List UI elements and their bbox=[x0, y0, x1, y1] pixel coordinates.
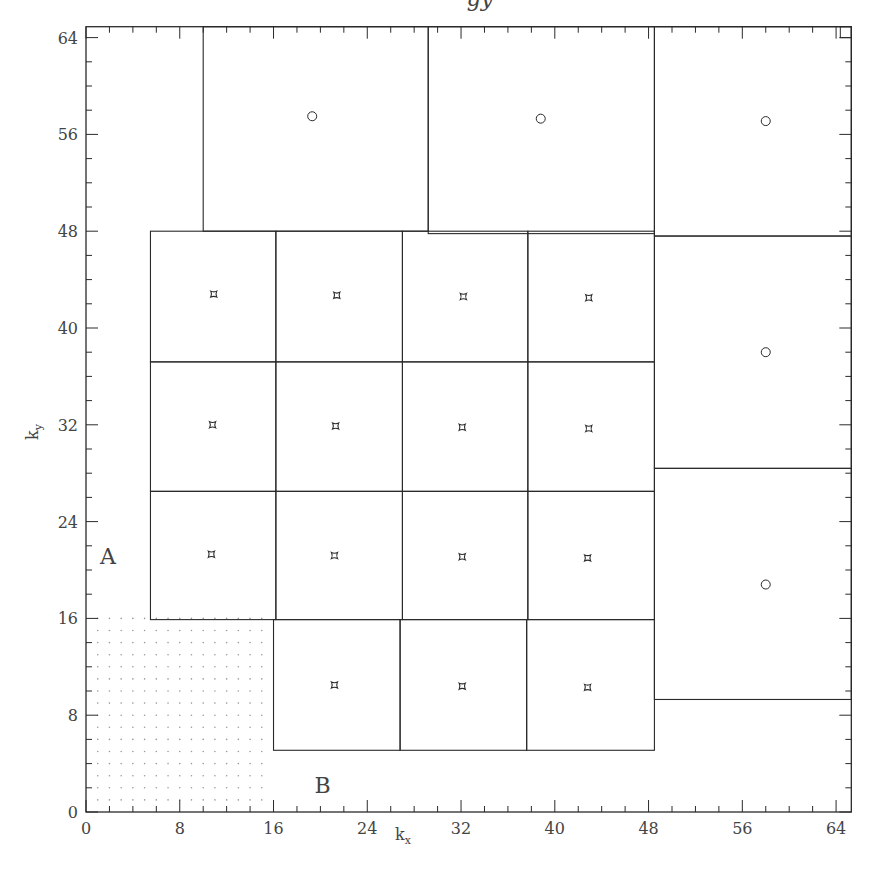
grid-dot bbox=[249, 714, 251, 716]
grid-dot bbox=[249, 799, 251, 801]
grid-box bbox=[150, 491, 275, 619]
grid-dot bbox=[202, 702, 204, 704]
grid-dot bbox=[120, 618, 122, 620]
grid-dot bbox=[191, 666, 193, 668]
grid-dot bbox=[132, 714, 134, 716]
grid-dot bbox=[226, 690, 228, 692]
grid-dot bbox=[109, 678, 111, 680]
grid-dot bbox=[167, 666, 169, 668]
grid-dot bbox=[226, 727, 228, 729]
x-tick-label: 48 bbox=[638, 819, 658, 838]
grid-dot bbox=[214, 775, 216, 777]
grid-dot bbox=[238, 763, 240, 765]
grid-dot bbox=[132, 727, 134, 729]
grid-dot bbox=[156, 763, 158, 765]
y-tick-label: 48 bbox=[58, 222, 78, 241]
grid-dot bbox=[120, 666, 122, 668]
grid-dot bbox=[120, 690, 122, 692]
grid-dot bbox=[109, 799, 111, 801]
grid-dot bbox=[167, 642, 169, 644]
grid-box bbox=[276, 491, 403, 619]
grid-dot bbox=[144, 690, 146, 692]
grid-dot bbox=[109, 727, 111, 729]
grid-dot bbox=[226, 775, 228, 777]
grid-dot bbox=[214, 702, 216, 704]
grid-dot bbox=[214, 618, 216, 620]
grid-dot bbox=[226, 799, 228, 801]
region-label-a: A bbox=[99, 544, 117, 569]
grid-dot bbox=[202, 678, 204, 680]
grid-dot bbox=[97, 739, 99, 741]
y-tick-label: 24 bbox=[58, 513, 78, 532]
y-tick-label: 56 bbox=[58, 125, 78, 144]
star-marker-icon bbox=[211, 291, 217, 297]
grid-dot bbox=[202, 799, 204, 801]
grid-dot bbox=[238, 751, 240, 753]
grid-dot bbox=[120, 739, 122, 741]
grid-dot bbox=[249, 666, 251, 668]
grid-dot bbox=[109, 751, 111, 753]
y-tick-label: 64 bbox=[58, 29, 78, 48]
grid-dot bbox=[238, 775, 240, 777]
grid-dot bbox=[167, 763, 169, 765]
x-tick-label: 8 bbox=[175, 819, 185, 838]
grid-dot bbox=[238, 666, 240, 668]
grid-dot bbox=[226, 714, 228, 716]
grid-dot bbox=[156, 642, 158, 644]
grid-dot bbox=[132, 787, 134, 789]
grid-dot bbox=[179, 714, 181, 716]
x-tick-label: 64 bbox=[826, 819, 846, 838]
grid-dot bbox=[144, 727, 146, 729]
grid-dot bbox=[202, 775, 204, 777]
x-tick-label: 16 bbox=[263, 819, 283, 838]
grid-dot bbox=[238, 654, 240, 656]
grid-dot bbox=[191, 787, 193, 789]
grid-dot bbox=[156, 727, 158, 729]
grid-dot bbox=[226, 751, 228, 753]
grid-dot bbox=[144, 739, 146, 741]
y-tick-label: 32 bbox=[58, 416, 78, 435]
grid-dot bbox=[97, 654, 99, 656]
y-tick-label: 8 bbox=[68, 706, 78, 725]
grid-dot bbox=[97, 751, 99, 753]
grid-dot bbox=[132, 666, 134, 668]
grid-dot bbox=[202, 787, 204, 789]
grid-dot bbox=[156, 775, 158, 777]
grid-dot bbox=[238, 618, 240, 620]
grid-dot bbox=[97, 763, 99, 765]
top-row-box bbox=[654, 27, 851, 236]
circle-marker-icon bbox=[761, 348, 770, 357]
grid-dot bbox=[132, 763, 134, 765]
x-axis-label: kx bbox=[395, 825, 412, 847]
grid-dot bbox=[214, 787, 216, 789]
grid-dot bbox=[144, 678, 146, 680]
grid-dot bbox=[120, 642, 122, 644]
star-marker-icon bbox=[585, 555, 591, 561]
grid-dot bbox=[144, 799, 146, 801]
grid-dot bbox=[109, 654, 111, 656]
circle-marker-icon bbox=[761, 117, 770, 126]
grid-dot bbox=[214, 727, 216, 729]
grid-dot bbox=[167, 678, 169, 680]
grid-dot bbox=[156, 787, 158, 789]
grid-dot bbox=[261, 799, 263, 801]
grid-dot bbox=[109, 618, 111, 620]
grid-dot bbox=[202, 727, 204, 729]
grid-dot bbox=[226, 678, 228, 680]
plot-axes bbox=[86, 27, 851, 812]
grid-dot bbox=[120, 775, 122, 777]
grid-dot bbox=[167, 702, 169, 704]
x-tick-label: 32 bbox=[451, 819, 471, 838]
star-marker-icon bbox=[334, 292, 340, 298]
y-tick-label: 16 bbox=[58, 609, 78, 628]
grid-dot bbox=[179, 787, 181, 789]
grid-dot bbox=[156, 739, 158, 741]
grid-dot bbox=[97, 775, 99, 777]
axis-labels: kxky bbox=[23, 423, 412, 847]
corner-square-icon bbox=[840, 27, 851, 38]
grid-dot bbox=[249, 775, 251, 777]
grid-dot bbox=[261, 751, 263, 753]
grid-dot bbox=[202, 666, 204, 668]
grid-dot bbox=[238, 690, 240, 692]
grid-dot bbox=[144, 751, 146, 753]
